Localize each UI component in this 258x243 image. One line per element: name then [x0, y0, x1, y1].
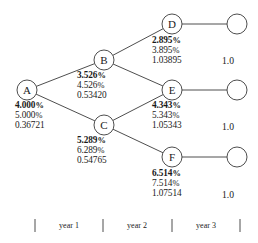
tree-node-label-e: E — [169, 84, 176, 96]
edges-group — [36, 24, 227, 157]
node-info-b: 3.526%4.526%0.53420 — [77, 71, 107, 101]
percent-sign-icon: % — [97, 136, 105, 145]
node-info-d: 2.895%3.895%1.03895 — [152, 36, 182, 66]
percent-sign-icon: % — [35, 101, 43, 110]
node-value-b: 0.53420 — [77, 91, 107, 101]
binomial-tree-diagram: ABCDEF 4.000%5.000%0.367213.526%4.526%0.… — [0, 0, 258, 243]
tree-node-label-b: B — [100, 54, 107, 66]
tree-edge-c-f — [113, 129, 163, 152]
tree-node-label-d: D — [168, 18, 176, 30]
timeline-period-label-2: year 2 — [107, 221, 167, 230]
node-info-e: 4.343%5.343%1.05343 — [152, 101, 182, 131]
timeline-period-label-3: year 3 — [176, 221, 236, 230]
percent-sign-icon: % — [172, 36, 180, 45]
tree-edge-b-e — [113, 64, 163, 86]
node-value-f: 1.07514 — [152, 189, 182, 199]
percent-sign-icon: % — [97, 81, 104, 90]
percent-sign-icon: % — [172, 179, 179, 188]
percent-sign-icon: % — [172, 169, 180, 178]
percent-sign-icon: % — [172, 101, 180, 110]
timeline-period-label-1: year 1 — [39, 221, 99, 230]
tree-node-label-f: F — [169, 151, 175, 163]
tree-node-label-a: A — [23, 84, 31, 96]
percent-sign-icon: % — [97, 146, 104, 155]
terminal-value-0: 1.0 — [222, 55, 234, 66]
percent-sign-icon: % — [35, 111, 42, 120]
node-value-e: 1.05343 — [152, 121, 182, 131]
terminal-node-t3[interactable] — [227, 147, 247, 167]
percent-sign-icon: % — [172, 111, 179, 120]
node-value-c: 0.54765 — [77, 156, 107, 166]
nodes-group: ABCDEF — [17, 14, 247, 167]
node-info-c: 5.289%6.289%0.54765 — [77, 136, 107, 166]
tree-node-label-c: C — [100, 119, 107, 131]
terminal-value-2: 1.0 — [222, 189, 234, 200]
node-value-a: 0.36721 — [15, 121, 45, 131]
terminal-node-t2[interactable] — [227, 80, 247, 100]
node-info-f: 6.514%7.514%1.07514 — [152, 169, 182, 199]
terminal-value-1: 1.0 — [222, 121, 234, 132]
terminal-node-t1[interactable] — [227, 14, 247, 34]
node-value-d: 1.03895 — [152, 56, 182, 66]
node-info-a: 4.000%5.000%0.36721 — [15, 101, 45, 131]
percent-sign-icon: % — [172, 46, 179, 55]
percent-sign-icon: % — [97, 71, 105, 80]
